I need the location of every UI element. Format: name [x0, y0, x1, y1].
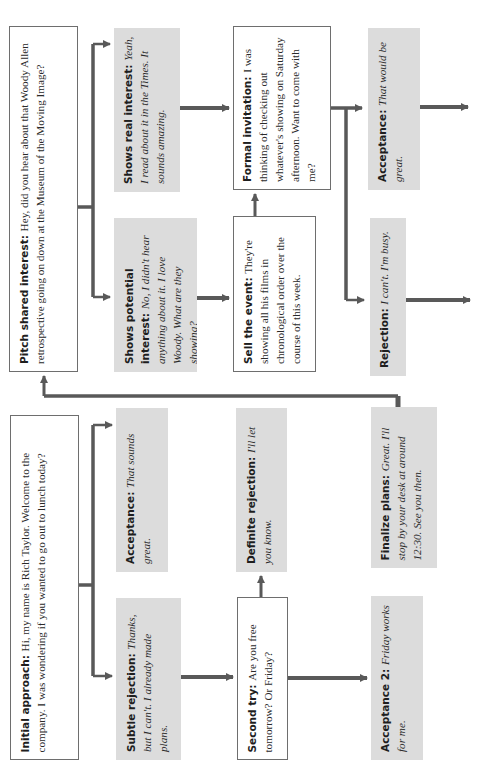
node-acceptance-2: Acceptance 2: Friday works for me. — [371, 596, 423, 760]
node-finalize-plans: Finalize plans: Great. I'll stop by your… — [371, 407, 437, 568]
node-label: Acceptance 2: — [379, 665, 391, 752]
node-subtle-rejection: Subtle rejection: Thanks, but I can't. I… — [116, 598, 181, 760]
node-label: Acceptance: — [124, 488, 136, 564]
node-label: Finalize plans: — [379, 471, 391, 560]
node-sell-the-event: Sell the event: They're showing all his … — [233, 216, 316, 372]
node-definite-rejection: Definite rejection: I'll let you know. — [236, 408, 287, 572]
node-label: Acceptance: — [376, 106, 388, 182]
node-label: Subtle rejection: — [124, 650, 136, 752]
node-pitch-shared-interest: Pitch shared interest: Hey, did you hear… — [9, 26, 78, 372]
node-label: Pitch shared interest: — [17, 231, 29, 364]
node-shows-real-interest: Shows real interest: Yeah, I read about … — [114, 28, 180, 192]
node-acceptance-lunch: Acceptance: That sounds great. — [116, 408, 168, 572]
node-initial-approach: Initial approach: Hi, my name is Rich Ta… — [10, 415, 79, 760]
node-label: Initial approach: — [18, 651, 30, 752]
node-label: Formal invitation: — [241, 73, 253, 182]
node-formal-invitation: Formal invitation: I was thinking of che… — [233, 26, 331, 190]
node-label: Definite rejection: — [244, 453, 256, 564]
node-label: Shows real interest: — [122, 61, 134, 184]
node-acceptance-top: Acceptance: That would be great. — [368, 28, 420, 190]
node-label: Rejection: — [378, 305, 390, 368]
node-shows-potential-interest: Shows potential interest: No, I didn't h… — [114, 218, 197, 372]
node-text: I can't. I'm busy. — [378, 231, 390, 304]
node-second-try: Second try: Are you free tomorrow? Or Fr… — [237, 597, 288, 760]
node-label: Second try: — [245, 680, 257, 752]
node-label: Sell the event: — [241, 274, 253, 364]
node-rejection-top: Rejection: I can't. I'm busy. — [370, 218, 406, 376]
